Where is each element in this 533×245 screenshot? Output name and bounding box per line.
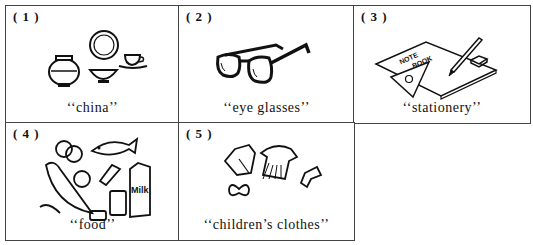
stationery-icon: NOTE BOOK xyxy=(371,34,521,99)
panel-caption: ‘‘children’s clothes’’ xyxy=(179,217,354,233)
panel-eye-glasses: ( 2 ) ‘‘eye glasses’’ xyxy=(178,5,355,124)
childrens-clothes-icon xyxy=(221,139,336,204)
milk-carton-label: Milk xyxy=(131,185,149,195)
panel-number: ( 1 ) xyxy=(13,9,40,25)
panel-china: ( 1 ) ‘‘china’’ xyxy=(5,5,180,124)
eyeglasses-icon xyxy=(211,39,321,89)
panel-number: ( 3 ) xyxy=(361,9,388,25)
panel-caption: ‘‘eye glasses’’ xyxy=(179,100,354,116)
panel-number: ( 2 ) xyxy=(186,9,213,25)
china-dishes-icon xyxy=(46,28,156,88)
panel-caption: ‘‘stationery’’ xyxy=(354,100,530,116)
panel-stationery: ( 3 ) NOTE BOOK ‘‘stationery’’ xyxy=(353,5,531,124)
panel-number: ( 5 ) xyxy=(186,126,213,142)
panel-food: ( 4 ) Milk ‘‘food’’ xyxy=(5,122,180,241)
panel-childrens-clothes: ( 5 ) ‘‘children’s clothes’’ xyxy=(178,122,355,241)
food-icon: Milk xyxy=(34,135,164,215)
panel-caption: ‘‘china’’ xyxy=(6,100,179,116)
panel-caption: ‘‘food’’ xyxy=(6,217,179,233)
